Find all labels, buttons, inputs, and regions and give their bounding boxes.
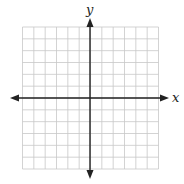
coordinate-plane: x y — [0, 0, 184, 184]
left-arrow-icon — [10, 95, 19, 102]
up-arrow-icon — [87, 18, 94, 27]
x-axis-label: x — [172, 90, 180, 105]
y-axis-label: y — [85, 2, 94, 17]
down-arrow-icon — [87, 170, 94, 179]
right-arrow-icon — [160, 95, 169, 102]
